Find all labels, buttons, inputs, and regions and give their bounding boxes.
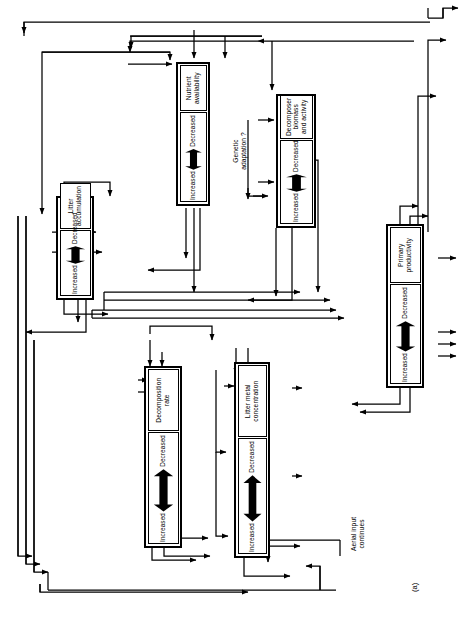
double-arrow-icon: [391, 320, 420, 351]
litter-metal-concentration-namebox: Litter metal concentration: [238, 366, 267, 438]
litter-metal-concentration-scale: Increased Decreased: [238, 439, 267, 555]
nutrient-availability-namebox: Nutrient availability: [180, 66, 207, 112]
decomposition-rate-low-label: Increased: [160, 512, 166, 544]
nutrient-availability-low-label: Increased: [190, 170, 196, 202]
decomposer-biomass-and-activity-namebox: Decomposer biomass and activity: [280, 95, 313, 139]
litter-metal-concentration-label: Litter metal concentration: [244, 369, 259, 435]
nutrient-availability-label: Nutrient availability: [185, 69, 200, 109]
litter-accumulation-high-label: Decreased: [72, 211, 78, 246]
node-litter-accumulation[interactable]: Increased Decreased Litter accumulation: [56, 196, 94, 300]
litter-metal-concentration-low-label: Increased: [249, 522, 255, 554]
node-litter-metal-concentration[interactable]: Increased Decreased Litter metal concent…: [234, 362, 270, 558]
decomposer-biomass-and-activity-scale: Increased Decreased: [280, 141, 313, 225]
annotation-aerial-input-continues: Aerial input continues: [350, 504, 366, 564]
double-arrow-icon: [61, 246, 90, 264]
primary-productivity-namebox: Primary productivity: [390, 228, 421, 284]
nutrient-availability-scale: Increased Decreased: [180, 113, 207, 203]
primary-productivity-scale: Increased Decreased: [390, 285, 421, 385]
node-primary-productivity[interactable]: Increased Decreased Primary productivity: [386, 224, 424, 388]
node-nutrient-availability[interactable]: Increased Decreased Nutrient availabilit…: [176, 62, 210, 206]
primary-productivity-high-label: Decreased: [402, 286, 408, 321]
litter-metal-concentration-high-label: Decreased: [249, 440, 255, 475]
decomposition-rate-high-label: Decreased: [160, 434, 166, 469]
primary-productivity-low-label: Increased: [402, 352, 408, 384]
decomposition-rate-scale: Increased Decreased: [148, 433, 179, 545]
nutrient-availability-high-label: Decreased: [190, 114, 196, 149]
node-decomposition-rate[interactable]: Increased Decreased Decomposition rate: [144, 366, 182, 548]
double-arrow-icon: [149, 468, 178, 511]
litter-accumulation-scale: Increased Decreased: [60, 231, 91, 297]
node-decomposer-biomass-and-activity[interactable]: Increased Decreased Decomposer biomass a…: [276, 94, 316, 228]
double-arrow-icon: [281, 174, 312, 192]
figure-canvas: Increased Decreased Nutrient availabilit…: [0, 0, 468, 619]
decomposition-rate-label: Decomposition rate: [155, 373, 170, 429]
double-arrow-icon: [181, 148, 206, 169]
primary-productivity-label: Primary productivity: [397, 231, 412, 281]
double-arrow-icon: [239, 474, 266, 521]
annotation-genetic-adaptation: Genetic adaptation ?: [232, 114, 248, 188]
decomposer-biomass-and-activity-low-label: Increased: [293, 192, 299, 224]
panel-label: (a): [410, 583, 419, 592]
litter-accumulation-low-label: Increased: [72, 264, 78, 296]
decomposer-biomass-and-activity-label: Decomposer biomass and activity: [285, 98, 308, 136]
decomposer-biomass-and-activity-high-label: Decreased: [293, 139, 299, 174]
decomposition-rate-namebox: Decomposition rate: [148, 370, 179, 432]
